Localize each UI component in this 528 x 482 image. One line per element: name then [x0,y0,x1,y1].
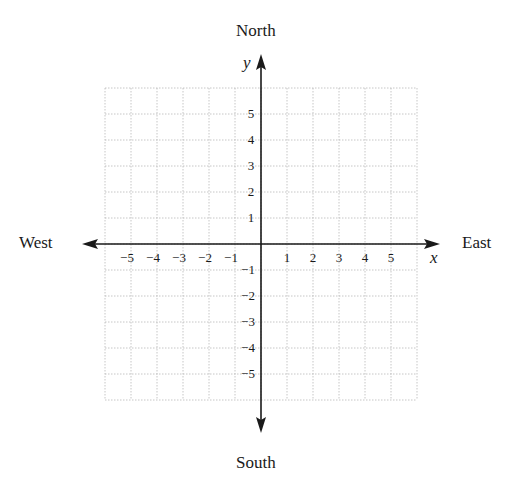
y-tick-label: −3 [241,314,255,330]
north-label: North [236,21,276,41]
x-tick-label: 2 [310,250,317,266]
y-tick-label: −2 [241,288,255,304]
x-tick-label: 3 [336,250,343,266]
x-tick-label: 5 [388,250,395,266]
x-tick-label: 4 [362,250,369,266]
x-tick-label: 1 [284,250,291,266]
y-axis-label: y [243,53,251,73]
y-tick-label: −1 [241,262,255,278]
west-label: West [19,233,53,253]
y-tick-label: 5 [248,106,255,122]
y-tick-label: 3 [248,158,255,174]
x-tick-label: −5 [120,250,134,266]
east-label: East [462,233,491,253]
coordinate-grid [0,0,528,482]
x-tick-label: −1 [224,250,238,266]
y-tick-label: −4 [241,340,255,356]
x-tick-label: −3 [172,250,186,266]
south-label: South [236,453,276,473]
y-tick-label: 1 [248,210,255,226]
y-tick-label: 4 [248,132,255,148]
y-tick-label: 2 [248,184,255,200]
y-tick-label: −5 [241,366,255,382]
x-tick-label: −2 [198,250,212,266]
x-axis-label: x [430,248,438,268]
x-tick-label: −4 [146,250,160,266]
